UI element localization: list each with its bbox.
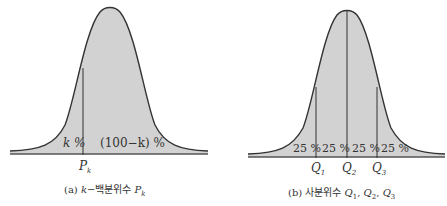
caption-b: (b) 사분위수 Q1, Q2, Q3 (288, 186, 395, 201)
region-k-label: k % (63, 136, 86, 150)
region-q-label-4: 25 % (381, 142, 409, 155)
q2-marker-label: Q2 (342, 161, 357, 177)
region-q-label-2: 25 % (322, 142, 350, 155)
pk-marker-label: Pk (78, 159, 91, 175)
region-q-label-3: 25 % (352, 142, 380, 155)
curve-a-fill (10, 8, 208, 155)
q1-marker-label: Q1 (311, 161, 325, 177)
panel-b: 25 % 25 % 25 % 25 % Q1 Q2 Q3 (b) 사분위수 Q1… (248, 11, 445, 202)
q3-marker-label: Q3 (372, 161, 387, 177)
panel-a: k % (100−k) % Pk (a) k−백분위수 Pk (10, 8, 208, 199)
region-q-label-1: 25 % (293, 142, 321, 155)
caption-a: (a) k−백분위수 Pk (64, 183, 146, 198)
region-100-k-label: (100−k) % (100, 136, 165, 150)
percentile-diagram: k % (100−k) % Pk (a) k−백분위수 Pk 25 % 25 %… (0, 0, 447, 206)
